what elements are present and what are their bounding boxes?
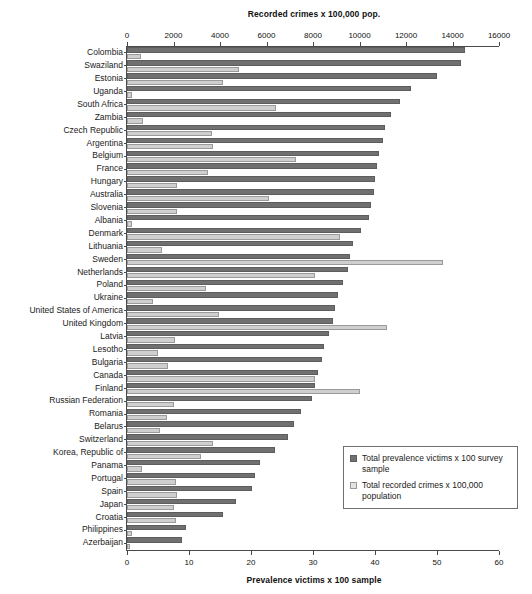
bar-recorded-crimes xyxy=(127,92,132,97)
axis-tick-label: 10000 xyxy=(348,30,370,42)
axis-tick-label: 8000 xyxy=(304,30,322,42)
chart-legend: Total prevalence victims x 100 survey sa… xyxy=(343,446,518,509)
bar-row xyxy=(127,279,499,292)
category-label: Lithuania xyxy=(88,242,123,251)
bar-recorded-crimes xyxy=(127,389,360,394)
bar-prevalence xyxy=(127,331,329,336)
bar-row xyxy=(127,253,499,266)
bar-prevalence xyxy=(127,125,385,130)
axis-tick-mark xyxy=(127,42,128,46)
axis-tick-label: 14000 xyxy=(441,30,463,42)
bar-recorded-crimes xyxy=(127,196,269,201)
category-label: Spain xyxy=(101,487,123,496)
top-axis-title: Recorded crimes x 100,000 pop. xyxy=(0,9,532,19)
axis-tick-label: 0 xyxy=(125,30,129,42)
bar-row xyxy=(127,240,499,253)
category-label: South Africa xyxy=(77,100,123,109)
bar-row xyxy=(127,369,499,382)
bar-prevalence xyxy=(127,447,275,452)
bar-prevalence xyxy=(127,151,379,156)
axis-tick-mark xyxy=(375,551,376,555)
bar-row xyxy=(127,331,499,344)
bar-recorded-crimes xyxy=(127,441,213,446)
bar-recorded-crimes xyxy=(127,67,239,72)
axis-tick-label: 16000 xyxy=(488,30,510,42)
bar-recorded-crimes xyxy=(127,350,158,355)
bar-recorded-crimes xyxy=(127,183,177,188)
bar-recorded-crimes xyxy=(127,286,206,291)
axis-tick-mark xyxy=(174,42,175,46)
axis-tick-label: 20 xyxy=(247,557,256,569)
axis-tick-label: 4000 xyxy=(211,30,229,42)
bar-recorded-crimes xyxy=(127,479,176,484)
bar-row xyxy=(127,421,499,434)
bar-prevalence xyxy=(127,396,312,401)
bar-prevalence xyxy=(127,99,400,104)
bar-prevalence xyxy=(127,138,383,143)
category-label: Korea, Republic of xyxy=(53,448,123,457)
axis-tick-mark xyxy=(360,42,361,46)
bar-recorded-crimes xyxy=(127,454,201,459)
bar-prevalence xyxy=(127,112,391,117)
category-label: Argentina xyxy=(87,139,123,148)
bar-prevalence xyxy=(127,215,369,220)
bar-row xyxy=(127,176,499,189)
bar-prevalence xyxy=(127,163,377,168)
legend-label-prevalence: Total prevalence victims x 100 survey sa… xyxy=(362,453,510,475)
bar-recorded-crimes xyxy=(127,299,153,304)
bar-row xyxy=(127,408,499,421)
category-label: Bulgaria xyxy=(92,358,123,367)
bar-row xyxy=(127,524,499,537)
figure-caption xyxy=(24,588,510,594)
bar-recorded-crimes xyxy=(127,105,276,110)
axis-tick-label: 50 xyxy=(433,557,442,569)
bar-prevalence xyxy=(127,189,374,194)
category-label: Albania xyxy=(95,216,123,225)
bar-recorded-crimes xyxy=(127,492,177,497)
bar-row xyxy=(127,73,499,86)
category-label: Colombia xyxy=(87,48,123,57)
bar-prevalence xyxy=(127,176,375,181)
bar-prevalence xyxy=(127,344,324,349)
bar-recorded-crimes xyxy=(127,337,175,342)
axis-tick-mark xyxy=(437,551,438,555)
bar-recorded-crimes xyxy=(127,312,219,317)
bar-prevalence xyxy=(127,47,465,52)
bar-recorded-crimes xyxy=(127,144,213,149)
bar-recorded-crimes xyxy=(127,363,168,368)
bar-prevalence xyxy=(127,241,353,246)
category-label: Canada xyxy=(93,371,123,380)
bar-prevalence xyxy=(127,409,301,414)
bar-recorded-crimes xyxy=(127,247,162,252)
axis-tick-mark xyxy=(267,42,268,46)
category-label: Romania xyxy=(89,409,123,418)
bar-prevalence xyxy=(127,280,343,285)
category-label: Zambia xyxy=(95,113,123,122)
bar-row xyxy=(127,124,499,137)
bar-prevalence xyxy=(127,512,223,517)
bar-prevalence xyxy=(127,73,437,78)
category-label: Slovenia xyxy=(90,203,123,212)
legend-item-recorded: Total recorded crimes x 100,000 populati… xyxy=(350,480,510,502)
bar-recorded-crimes xyxy=(127,170,208,175)
category-label: Philippines xyxy=(82,525,123,534)
bar-prevalence xyxy=(127,305,335,310)
legend-label-recorded: Total recorded crimes x 100,000 populati… xyxy=(362,480,510,502)
top-axis-tick-labels: 0200040006000800010000120001400016000 xyxy=(0,30,532,42)
bottom-axis-tick-labels: 0102030405060 xyxy=(0,557,532,569)
bar-recorded-crimes xyxy=(127,221,132,226)
bar-row xyxy=(127,292,499,305)
category-label: Denmark xyxy=(89,229,123,238)
bar-row xyxy=(127,357,499,370)
axis-tick-label: 30 xyxy=(309,557,318,569)
category-label: Australia xyxy=(90,190,123,199)
category-label: Sweden xyxy=(92,255,123,264)
bottom-axis-title: Prevalence victims x 100 sample xyxy=(0,575,532,585)
bar-prevalence xyxy=(127,499,236,504)
category-label: Estonia xyxy=(95,74,123,83)
category-label: Panama xyxy=(91,461,123,470)
bar-prevalence xyxy=(127,357,322,362)
axis-tick-mark xyxy=(499,42,500,46)
bar-recorded-crimes xyxy=(127,80,223,85)
category-label: Czech Republic xyxy=(63,126,123,135)
